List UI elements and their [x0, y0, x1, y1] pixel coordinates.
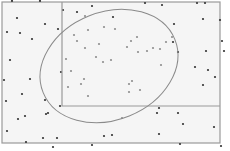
inside-point — [84, 47, 86, 49]
outside-point — [91, 144, 93, 146]
outside-point — [17, 118, 19, 120]
inside-point — [70, 70, 72, 72]
inside-point — [139, 89, 141, 91]
outside-point — [31, 38, 33, 40]
inside-point — [80, 83, 82, 85]
inside-point — [83, 78, 85, 80]
inside-point — [152, 47, 154, 49]
inside-point — [102, 61, 104, 63]
outside-point — [24, 115, 26, 117]
outside-point — [25, 141, 27, 143]
outside-point — [219, 19, 221, 21]
outside-point — [205, 50, 207, 52]
inside-point — [136, 36, 138, 38]
outside-point — [112, 16, 114, 18]
inside-point — [130, 40, 132, 42]
inside-point — [76, 40, 78, 42]
outside-point — [161, 4, 163, 6]
inside-point — [87, 95, 89, 97]
outside-point — [16, 17, 18, 19]
outside-point — [3, 79, 5, 81]
outside-point — [202, 84, 204, 86]
outside-point — [44, 23, 46, 25]
inside-point — [146, 50, 148, 52]
outside-point — [45, 113, 47, 115]
inside-point — [95, 56, 97, 58]
inside-point — [165, 41, 167, 43]
outside-point — [182, 123, 184, 125]
outside-point — [177, 112, 179, 114]
outside-point — [156, 112, 158, 114]
outside-point — [202, 18, 204, 20]
outside-point — [220, 145, 222, 147]
outside-point — [39, 0, 41, 2]
inside-point — [131, 80, 133, 82]
venn-scatter-diagram — [0, 0, 230, 151]
inside-point — [87, 29, 89, 31]
outside-point — [196, 2, 198, 4]
outside-point — [5, 100, 7, 102]
outside-point — [91, 5, 93, 7]
outside-point — [144, 2, 146, 4]
outside-point — [194, 66, 196, 68]
outside-point — [47, 112, 49, 114]
outside-point — [9, 59, 11, 61]
inside-point — [128, 83, 130, 85]
outside-point — [56, 137, 58, 139]
outside-point — [103, 135, 105, 137]
outside-point — [6, 31, 8, 33]
outside-point — [29, 78, 31, 80]
outside-point — [172, 41, 174, 43]
outside-point — [204, 2, 206, 4]
outside-point — [213, 126, 215, 128]
inside-point — [159, 48, 161, 50]
outside-point — [6, 130, 8, 132]
outside-point — [57, 28, 59, 30]
inside-point — [73, 34, 75, 36]
inside-point — [128, 91, 130, 93]
inside-point — [114, 28, 116, 30]
outside-point — [19, 32, 21, 34]
inside-point — [171, 36, 173, 38]
outside-point — [21, 93, 23, 95]
outside-point — [173, 23, 175, 25]
inside-point — [103, 26, 105, 28]
outside-point — [223, 50, 225, 52]
outside-point — [158, 107, 160, 109]
outside-point — [76, 11, 78, 13]
inside-point — [67, 86, 69, 88]
inside-point — [137, 51, 139, 53]
outside-point — [179, 143, 181, 145]
inside-point — [110, 59, 112, 61]
inside-point — [160, 64, 162, 66]
inside-point — [126, 46, 128, 48]
outside-point — [59, 105, 61, 107]
outside-point — [207, 69, 209, 71]
inside-point — [65, 58, 67, 60]
outside-point — [44, 99, 46, 101]
inside-point — [98, 43, 100, 45]
outside-point — [214, 76, 216, 78]
outside-point — [158, 133, 160, 135]
outside-point — [52, 146, 54, 148]
outside-point — [11, 0, 13, 2]
outside-point — [111, 134, 113, 136]
outside-point — [221, 40, 223, 42]
outside-point — [42, 137, 44, 139]
